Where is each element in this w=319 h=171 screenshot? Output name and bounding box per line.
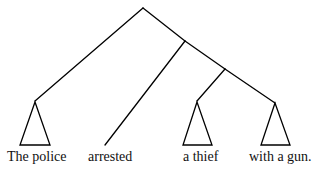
branch-root-np [35, 8, 143, 101]
label-with-a-gun: with a gun. [249, 149, 312, 165]
triangle-with-a-gun [261, 103, 290, 145]
triangle-a-thief [183, 102, 212, 145]
branch-vp-inner [185, 41, 225, 69]
branch-inner-object [197, 69, 225, 101]
syntax-tree-diagram: The police arrested a thief with a gun. [0, 0, 319, 171]
branch-vp-verb [105, 41, 185, 145]
label-the-police: The police [7, 149, 66, 165]
branch-inner-pp [225, 69, 275, 103]
label-arrested: arrested [88, 149, 132, 165]
branch-root-vp [143, 8, 185, 41]
label-a-thief: a thief [183, 149, 218, 165]
tree-lines [0, 0, 319, 171]
triangle-the-police [20, 102, 50, 145]
